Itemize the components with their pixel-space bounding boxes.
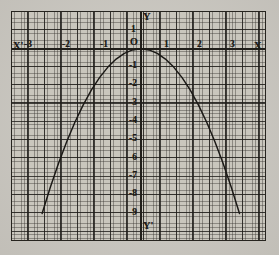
- graph-border: [11, 11, 266, 241]
- graph-figure: X' X Y Y' O -3 -2 -1 1 2 3 1 -1 -2 -3 -4…: [0, 0, 279, 255]
- graph-paper-area: X' X Y Y' O -3 -2 -1 1 2 3 1 -1 -2 -3 -4…: [11, 11, 266, 241]
